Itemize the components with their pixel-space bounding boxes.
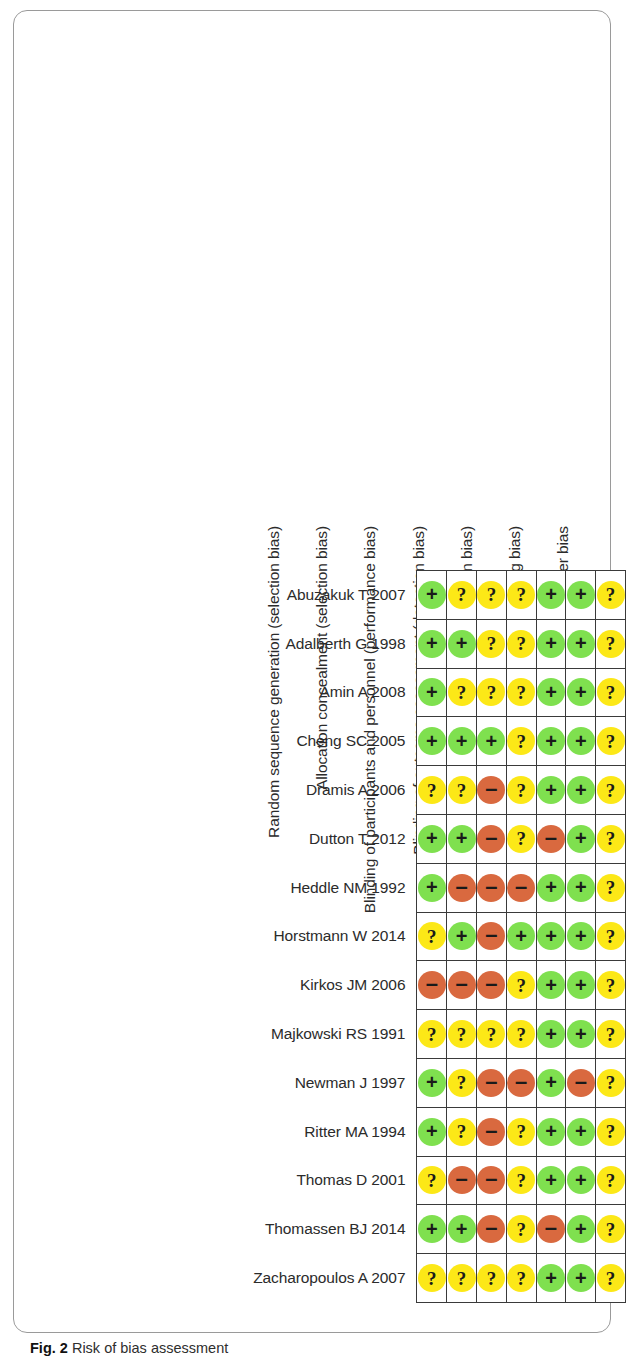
judgement-cell[interactable]: – (477, 1156, 507, 1205)
judgement-cell[interactable]: + (566, 668, 596, 717)
judgement-cell[interactable]: ? (506, 1107, 536, 1156)
judgement-cell[interactable]: ? (506, 619, 536, 668)
judgement-cell[interactable]: + (566, 814, 596, 863)
judgement-cell[interactable]: – (536, 814, 566, 863)
judgement-cell[interactable]: + (536, 766, 566, 815)
judgement-cell[interactable]: – (506, 863, 536, 912)
judgement-cell[interactable]: + (447, 814, 477, 863)
judgement-cell[interactable]: + (566, 1010, 596, 1059)
judgement-cell[interactable]: – (477, 814, 507, 863)
judgement-cell[interactable]: ? (477, 668, 507, 717)
judgement-cell[interactable]: + (566, 717, 596, 766)
judgement-cell[interactable]: + (566, 912, 596, 961)
judgement-cell[interactable]: ? (506, 961, 536, 1010)
judgement-cell[interactable]: + (536, 571, 566, 620)
judgement-cell[interactable]: ? (506, 1205, 536, 1254)
judgement-cell[interactable]: ? (506, 1156, 536, 1205)
judgement-cell[interactable]: + (536, 863, 566, 912)
judgement-cell[interactable]: – (536, 1205, 566, 1254)
judgement-cell[interactable]: ? (477, 619, 507, 668)
judgement-cell[interactable]: + (447, 1205, 477, 1254)
judgement-cell[interactable]: – (477, 912, 507, 961)
judgement-cell[interactable]: + (536, 912, 566, 961)
judgement-cell[interactable]: ? (447, 766, 477, 815)
judgement-cell[interactable]: ? (596, 1156, 626, 1205)
judgement-cell[interactable]: + (417, 571, 447, 620)
judgement-cell[interactable]: + (536, 1107, 566, 1156)
judgement-cell[interactable]: – (477, 961, 507, 1010)
judgement-cell[interactable]: ? (417, 766, 447, 815)
judgement-cell[interactable]: – (566, 1058, 596, 1107)
judgement-cell[interactable]: ? (447, 1254, 477, 1303)
judgement-cell[interactable]: + (417, 814, 447, 863)
judgement-cell[interactable]: + (477, 717, 507, 766)
judgement-cell[interactable]: + (536, 619, 566, 668)
judgement-cell[interactable]: – (447, 961, 477, 1010)
judgement-cell[interactable]: + (566, 961, 596, 1010)
judgement-cell[interactable]: ? (596, 863, 626, 912)
judgement-cell[interactable]: + (417, 863, 447, 912)
judgement-cell[interactable]: + (536, 1010, 566, 1059)
judgement-cell[interactable]: ? (596, 717, 626, 766)
judgement-cell[interactable]: + (447, 619, 477, 668)
judgement-cell[interactable]: + (536, 668, 566, 717)
judgement-cell[interactable]: – (477, 1107, 507, 1156)
judgement-cell[interactable]: ? (596, 1010, 626, 1059)
judgement-cell[interactable]: – (447, 1156, 477, 1205)
judgement-cell[interactable]: – (477, 863, 507, 912)
judgement-cell[interactable]: ? (506, 668, 536, 717)
judgement-cell[interactable]: ? (417, 1010, 447, 1059)
judgement-cell[interactable]: + (417, 1058, 447, 1107)
judgement-cell[interactable]: + (536, 1156, 566, 1205)
judgement-cell[interactable]: + (566, 571, 596, 620)
judgement-cell[interactable]: + (566, 619, 596, 668)
judgement-cell[interactable]: ? (477, 1010, 507, 1059)
judgement-cell[interactable]: + (447, 717, 477, 766)
judgement-cell[interactable]: ? (596, 1107, 626, 1156)
judgement-cell[interactable]: ? (447, 571, 477, 620)
judgement-cell[interactable]: ? (596, 1058, 626, 1107)
judgement-cell[interactable]: + (417, 619, 447, 668)
judgement-cell[interactable]: – (417, 961, 447, 1010)
judgement-cell[interactable]: + (536, 961, 566, 1010)
judgement-cell[interactable]: – (506, 1058, 536, 1107)
judgement-cell[interactable]: ? (506, 1254, 536, 1303)
judgement-cell[interactable]: + (566, 1156, 596, 1205)
judgement-cell[interactable]: ? (506, 571, 536, 620)
judgement-cell[interactable]: + (566, 863, 596, 912)
judgement-cell[interactable]: ? (596, 766, 626, 815)
judgement-cell[interactable]: + (447, 912, 477, 961)
judgement-cell[interactable]: + (566, 1107, 596, 1156)
judgement-cell[interactable]: + (506, 912, 536, 961)
judgement-cell[interactable]: + (536, 1254, 566, 1303)
judgement-cell[interactable]: + (536, 1058, 566, 1107)
judgement-cell[interactable]: ? (447, 1010, 477, 1059)
judgement-cell[interactable]: ? (477, 1254, 507, 1303)
judgement-cell[interactable]: – (447, 863, 477, 912)
judgement-cell[interactable]: ? (596, 619, 626, 668)
judgement-cell[interactable]: ? (596, 912, 626, 961)
judgement-cell[interactable]: ? (596, 1254, 626, 1303)
judgement-cell[interactable]: ? (596, 668, 626, 717)
judgement-cell[interactable]: ? (506, 814, 536, 863)
judgement-cell[interactable]: ? (596, 961, 626, 1010)
judgement-cell[interactable]: ? (506, 717, 536, 766)
judgement-cell[interactable]: + (417, 717, 447, 766)
judgement-cell[interactable]: + (566, 766, 596, 815)
judgement-cell[interactable]: ? (596, 571, 626, 620)
judgement-cell[interactable]: ? (447, 1107, 477, 1156)
judgement-cell[interactable]: – (477, 1058, 507, 1107)
judgement-cell[interactable]: ? (417, 912, 447, 961)
judgement-cell[interactable]: ? (417, 1156, 447, 1205)
judgement-cell[interactable]: ? (477, 571, 507, 620)
judgement-cell[interactable]: ? (506, 766, 536, 815)
judgement-cell[interactable]: – (477, 1205, 507, 1254)
judgement-cell[interactable]: ? (596, 814, 626, 863)
judgement-cell[interactable]: + (566, 1254, 596, 1303)
judgement-cell[interactable]: + (566, 1205, 596, 1254)
judgement-cell[interactable]: – (477, 766, 507, 815)
judgement-cell[interactable]: + (417, 1107, 447, 1156)
judgement-cell[interactable]: + (417, 1205, 447, 1254)
judgement-cell[interactable]: ? (596, 1205, 626, 1254)
judgement-cell[interactable]: + (536, 717, 566, 766)
